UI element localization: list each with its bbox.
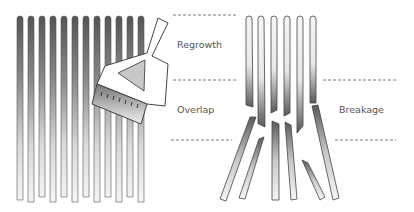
right-broken-strands: [220, 16, 339, 201]
hair-strand-upper: [284, 16, 290, 116]
hair-strand: [17, 16, 23, 200]
hair-strand-upper: [258, 16, 265, 127]
hair-strand: [50, 16, 56, 202]
label-regrowth: Regrowth: [177, 39, 222, 50]
hair-strand-lower: [285, 122, 297, 200]
diagram: Regrowth Overlap Breakage: [0, 0, 414, 212]
hair-strand: [28, 16, 34, 202]
hair-strand: [39, 16, 45, 197]
hair-strand-upper: [297, 16, 303, 133]
zone-dividers: [171, 15, 396, 140]
hair-strand: [83, 16, 89, 197]
hair-strand-lower: [220, 117, 256, 201]
label-overlap: Overlap: [177, 104, 214, 115]
hair-strand-lower: [302, 160, 325, 200]
hair-strand-lower: [272, 121, 279, 200]
hair-strand: [61, 16, 67, 197]
hair-strand-upper: [310, 16, 316, 103]
hair-strand: [72, 16, 78, 202]
hair-strand: [94, 16, 100, 202]
hair-strand-upper: [271, 16, 277, 113]
label-breakage: Breakage: [339, 104, 384, 115]
hair-strand-upper: [246, 16, 253, 107]
